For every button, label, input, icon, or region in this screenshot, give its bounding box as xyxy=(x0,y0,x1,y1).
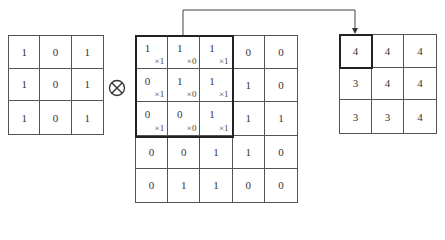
input-cell: 0 xyxy=(136,169,168,202)
weight-label: ×1 xyxy=(155,123,165,133)
cell-value: 0 xyxy=(181,146,187,158)
cell-value: 0 xyxy=(278,46,284,58)
input-cell: 0×0 xyxy=(168,102,200,135)
circled-times-icon xyxy=(108,79,126,97)
cell-value: 0 xyxy=(145,75,151,87)
output-grid: 4 4 4 3 4 4 3 3 4 xyxy=(339,34,437,134)
input-cell: 0 xyxy=(265,69,297,102)
kernel-cell: 1 xyxy=(72,101,103,134)
cell-value: 0 xyxy=(245,179,251,191)
weight-label: ×1 xyxy=(155,89,165,99)
input-cell: 1×1 xyxy=(200,36,232,69)
input-cell: 1×1 xyxy=(200,69,232,102)
cell-value: 1 xyxy=(213,179,219,191)
input-cell: 0 xyxy=(265,136,297,169)
cell-value: 0 xyxy=(149,146,155,158)
cell-value: 3 xyxy=(353,111,359,123)
cell-value: 3 xyxy=(385,111,391,123)
weight-label: ×1 xyxy=(219,123,229,133)
input-cell: 1 xyxy=(233,136,265,169)
cell-value: 1 xyxy=(21,78,27,90)
weight-label: ×1 xyxy=(219,56,229,66)
cell-value: 1 xyxy=(177,75,183,87)
output-cell: 3 xyxy=(340,100,372,133)
input-cell: 1×0 xyxy=(168,69,200,102)
output-cell: 4 xyxy=(404,100,436,133)
cell-value: 0 xyxy=(53,78,59,90)
cell-value: 3 xyxy=(353,77,359,89)
input-cell: 0×1 xyxy=(136,102,168,135)
input-cell: 0×1 xyxy=(136,69,168,102)
input-cell: 0 xyxy=(233,169,265,202)
output-cell: 4 xyxy=(372,68,404,101)
output-cell: 3 xyxy=(340,68,372,101)
output-cell: 3 xyxy=(372,100,404,133)
cell-value: 0 xyxy=(177,108,183,120)
cell-value: 0 xyxy=(53,112,59,124)
kernel-cell: 1 xyxy=(72,36,103,69)
input-cell: 1 xyxy=(265,102,297,135)
cell-value: 1 xyxy=(245,146,251,158)
input-cell: 1 xyxy=(200,136,232,169)
cell-value: 1 xyxy=(21,46,27,58)
kernel-cell: 1 xyxy=(9,69,40,102)
input-cell: 1×1 xyxy=(136,36,168,69)
input-cell: 0 xyxy=(265,36,297,69)
weight-label: ×0 xyxy=(187,56,197,66)
cell-value: 0 xyxy=(149,179,155,191)
cell-value: 1 xyxy=(245,79,251,91)
output-cell: 4 xyxy=(404,68,436,101)
cell-value: 1 xyxy=(181,179,187,191)
cell-value: 0 xyxy=(278,179,284,191)
input-cell: 0 xyxy=(136,136,168,169)
cell-value: 0 xyxy=(278,79,284,91)
cell-value: 1 xyxy=(85,112,91,124)
cell-value: 1 xyxy=(209,75,215,87)
cell-value: 0 xyxy=(245,46,251,58)
kernel-cell: 1 xyxy=(9,36,40,69)
cell-value: 1 xyxy=(278,112,284,124)
cell-value: 1 xyxy=(209,42,215,54)
input-cell: 1 xyxy=(233,102,265,135)
cell-value: 1 xyxy=(21,112,27,124)
input-cell: 1 xyxy=(200,169,232,202)
input-cell: 0 xyxy=(265,169,297,202)
cell-value: 0 xyxy=(53,46,59,58)
weight-label: ×0 xyxy=(187,89,197,99)
output-cell: 4 xyxy=(372,35,404,68)
cell-value: 1 xyxy=(245,112,251,124)
cell-value: 1 xyxy=(213,146,219,158)
input-cell: 1×1 xyxy=(200,102,232,135)
cell-value: 1 xyxy=(85,46,91,58)
output-cell: 4 xyxy=(340,35,372,68)
cell-value: 1 xyxy=(145,42,151,54)
cell-value: 1 xyxy=(177,42,183,54)
cell-value: 4 xyxy=(385,45,391,57)
cell-value: 1 xyxy=(209,108,215,120)
cell-value: 1 xyxy=(85,78,91,90)
kernel-cell: 0 xyxy=(40,36,71,69)
cell-value: 4 xyxy=(385,77,391,89)
input-cell: 1×0 xyxy=(168,36,200,69)
weight-label: ×1 xyxy=(219,89,229,99)
cell-value: 0 xyxy=(145,108,151,120)
cell-value: 4 xyxy=(417,45,423,57)
input-cell: 0 xyxy=(168,136,200,169)
kernel-cell: 1 xyxy=(72,69,103,102)
input-cell: 0 xyxy=(233,36,265,69)
cell-value: 4 xyxy=(417,77,423,89)
cell-value: 4 xyxy=(417,111,423,123)
cell-value: 0 xyxy=(278,146,284,158)
cell-value: 4 xyxy=(353,45,359,57)
output-cell: 4 xyxy=(404,35,436,68)
input-grid: 1×1 1×0 1×1 0 0 0×1 1×0 1×1 1 0 0×1 0×0 … xyxy=(135,35,298,203)
input-cell: 1 xyxy=(233,69,265,102)
kernel-cell: 0 xyxy=(40,101,71,134)
weight-label: ×1 xyxy=(155,56,165,66)
weight-label: ×0 xyxy=(187,123,197,133)
input-cell: 1 xyxy=(168,169,200,202)
kernel-cell: 1 xyxy=(9,101,40,134)
kernel-cell: 0 xyxy=(40,69,71,102)
kernel-grid: 1 0 1 1 0 1 1 0 1 xyxy=(8,35,104,135)
